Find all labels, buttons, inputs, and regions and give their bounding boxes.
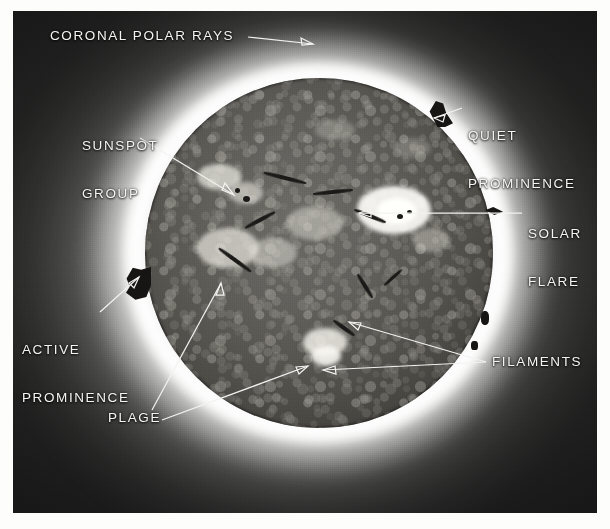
sunspot-umbra-d bbox=[407, 210, 412, 214]
limb-spicule-southeast bbox=[481, 311, 489, 325]
figure-page: CORONAL POLAR RAYS SUNSPOT GROUP QUIET P… bbox=[0, 0, 610, 529]
plage-region-center bbox=[287, 206, 343, 240]
limb-spicule-south bbox=[471, 341, 478, 350]
label-active-prominence-line2: PROMINENCE bbox=[22, 390, 130, 406]
label-quiet-prominence-line2: PROMINENCE bbox=[468, 176, 576, 192]
sun-photograph: CORONAL POLAR RAYS SUNSPOT GROUP QUIET P… bbox=[13, 11, 597, 513]
solar-disk bbox=[145, 78, 493, 428]
label-filaments[interactable]: FILAMENTS bbox=[492, 354, 582, 370]
label-solar-flare-line1: SOLAR bbox=[528, 226, 582, 242]
label-plage[interactable]: PLAGE bbox=[108, 410, 161, 426]
label-quiet-prominence-line1: QUIET bbox=[468, 128, 576, 144]
plage-region-lower-center-2 bbox=[311, 346, 341, 366]
label-sunspot-group-line1: SUNSPOT bbox=[82, 138, 158, 154]
plage-region-right bbox=[413, 228, 449, 252]
label-active-prominence-line1: ACTIVE bbox=[22, 342, 130, 358]
plage-region-upper-right bbox=[395, 138, 431, 158]
label-coronal-polar-rays[interactable]: CORONAL POLAR RAYS bbox=[50, 28, 234, 44]
label-solar-flare-line2: FLARE bbox=[528, 274, 582, 290]
label-sunspot-group-line2: GROUP bbox=[82, 186, 158, 202]
sunspot-umbra-b bbox=[235, 188, 240, 193]
sunspot-umbra-a bbox=[243, 196, 250, 202]
label-solar-flare[interactable]: SOLAR FLARE bbox=[528, 194, 582, 322]
sunspot-umbra-c bbox=[397, 214, 403, 219]
label-sunspot-group[interactable]: SUNSPOT GROUP bbox=[82, 106, 158, 234]
plage-region-mid-left bbox=[249, 238, 297, 268]
plage-region-top bbox=[315, 120, 355, 140]
